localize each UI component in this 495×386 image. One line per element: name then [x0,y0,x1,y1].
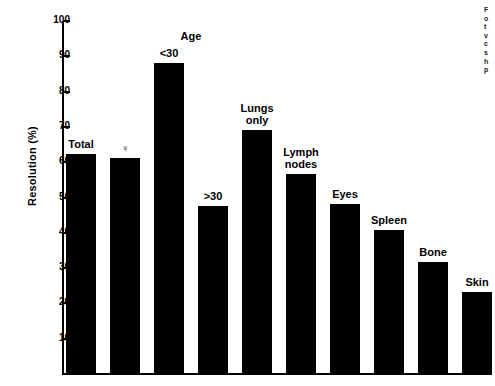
caption-line: o [484,15,495,24]
group-label-age: Age [161,30,221,42]
y-tick-label-wrap-60: 60 [26,161,70,163]
y-tick-label-wrap-70: 70 [26,126,70,128]
bar-label-lungs-only: Lungs only [228,102,286,126]
bar-label-eyes: Eyes [316,188,374,200]
bar-lungs-only [242,130,272,375]
figure-caption-cropped: Fotvcshp [484,6,495,75]
bar-label-30: <30 [140,47,198,59]
y-tick-label-100: 100 [40,15,70,25]
bar-label-bone: Bone [404,246,462,258]
y-tick-label-wrap-20: 20 [26,302,70,304]
y-tick-label-wrap-50: 50 [26,197,70,199]
caption-line: F [484,6,495,15]
y-tick-label-wrap-100: 100 [26,20,70,22]
bar-chart-figure: Resolution (%) 102030405060708090100 Tot… [0,0,495,386]
bar-bone [418,262,448,375]
caption-line: t [484,23,495,32]
bar-spleen [374,230,404,375]
y-axis-title: Resolution (%) [26,86,38,246]
bar-label-skin: Skin [448,276,495,288]
bar-label-30: >30 [184,190,242,202]
y-tick-label-wrap-10: 10 [26,338,70,340]
caption-line: p [484,66,495,75]
y-tick-label-wrap-40: 40 [26,232,70,234]
y-tick-label-70: 70 [40,121,70,131]
bar- [110,158,140,375]
bar-30 [154,63,184,375]
bar-label-symbol: ♀ [96,142,154,154]
y-tick-label-80: 80 [40,86,70,96]
caption-line: s [484,49,495,58]
caption-line: v [484,32,495,41]
bar-total [66,154,96,375]
bar-label-spleen: Spleen [360,214,418,226]
bar-lymph-nodes [286,174,316,375]
y-tick-label-wrap-30: 30 [26,267,70,269]
bar-eyes [330,204,360,375]
y-tick-label-wrap-80: 80 [26,91,70,93]
bar-30 [198,206,228,375]
bar-label-lymph-nodes: Lymph nodes [272,146,330,170]
caption-line: c [484,40,495,49]
y-tick-label-wrap-90: 90 [26,55,70,57]
caption-line: h [484,58,495,67]
bar-skin [462,292,492,375]
y-tick-label-90: 90 [40,50,70,60]
